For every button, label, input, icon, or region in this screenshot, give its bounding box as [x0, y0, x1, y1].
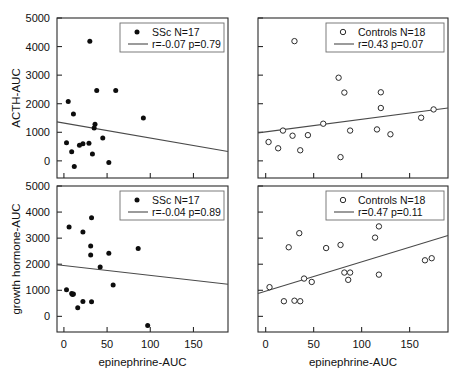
data-point-bottom-right-8 [342, 270, 347, 275]
data-point-top-right-13 [305, 132, 310, 137]
x-tick-label-bottom-left-1: 50 [101, 338, 113, 350]
figure-panel-grid: 010002000300040005000SSc N=17r=-0.07 p=0… [0, 0, 454, 382]
data-point-bottom-right-6 [422, 258, 427, 263]
x-tick-label-bottom-left-0: 0 [61, 338, 67, 350]
legend-marker-bottom-right [340, 197, 345, 202]
data-point-top-left-15 [106, 160, 111, 165]
legend-marker-top-left [135, 30, 140, 35]
y-axis-title-bottom: growth hormone-AUC [10, 203, 22, 314]
data-point-top-left-2 [113, 88, 118, 93]
data-point-bottom-right-2 [372, 235, 377, 240]
y-tick-label-bottom-left-4: 4000 [26, 206, 50, 218]
regression-line-bottom-left [57, 265, 228, 285]
data-point-top-right-8 [280, 128, 285, 133]
data-point-top-left-9 [64, 140, 69, 145]
data-point-top-right-3 [378, 90, 383, 95]
data-point-bottom-left-4 [136, 246, 141, 251]
legend-marker-top-right [340, 29, 345, 34]
data-point-bottom-right-16 [298, 299, 303, 304]
regression-line-top-left [57, 122, 228, 152]
y-tick-label-bottom-left-5: 5000 [26, 180, 50, 192]
legend-group-label-top-left: SSc N=17 [152, 26, 200, 38]
y-tick-label-bottom-left-3: 3000 [26, 232, 50, 244]
y-tick-label-bottom-left-2: 2000 [26, 258, 50, 270]
data-point-top-right-12 [290, 133, 295, 138]
data-point-bottom-right-9 [347, 270, 352, 275]
regression-line-bottom-right [258, 236, 448, 294]
x-axis-title-right: epinephrine-AUC [309, 356, 397, 368]
data-point-top-left-8 [100, 136, 105, 141]
scatter-figure: 010002000300040005000SSc N=17r=-0.07 p=0… [0, 0, 454, 382]
data-point-top-left-4 [71, 112, 76, 117]
x-axis-title-left: epinephrine-AUC [98, 356, 186, 368]
data-point-top-right-0 [292, 38, 297, 43]
data-point-bottom-left-0 [89, 215, 94, 220]
data-point-bottom-right-7 [429, 256, 434, 261]
y-tick-label-bottom-left-1: 1000 [26, 284, 50, 296]
data-point-bottom-right-11 [346, 277, 351, 282]
data-point-top-left-11 [86, 141, 91, 146]
y-tick-label-top-left-1: 1000 [26, 126, 50, 138]
data-point-top-right-1 [336, 75, 341, 80]
data-point-bottom-right-12 [301, 276, 306, 281]
data-point-top-right-4 [378, 105, 383, 110]
legend-group-label-bottom-left: SSc N=17 [152, 194, 200, 206]
data-point-bottom-left-14 [75, 305, 80, 310]
data-point-bottom-left-5 [88, 253, 93, 258]
data-point-bottom-left-6 [106, 251, 111, 256]
legend-stat-label-bottom-right: r=0.47 p=0.11 [358, 206, 423, 218]
x-tick-label-bottom-left-2: 100 [141, 338, 159, 350]
data-point-bottom-right-5 [286, 245, 291, 250]
data-point-bottom-left-2 [80, 229, 85, 234]
legend-stat-label-bottom-left: r=-0.04 p=0.89 [152, 206, 221, 218]
y-tick-label-top-left-5: 5000 [26, 12, 50, 24]
data-point-bottom-left-13 [89, 299, 94, 304]
x-tick-label-bottom-right-3: 150 [400, 338, 418, 350]
data-point-top-right-16 [298, 148, 303, 153]
data-point-bottom-left-15 [145, 323, 150, 328]
y-tick-label-top-left-3: 3000 [26, 69, 50, 81]
data-point-bottom-left-7 [98, 265, 103, 270]
legend-stat-label-top-right: r=0.43 p=0.07 [358, 38, 424, 50]
data-point-bottom-left-12 [80, 299, 85, 304]
data-point-bottom-left-1 [67, 224, 72, 229]
x-tick-label-bottom-right-2: 100 [352, 338, 370, 350]
data-point-bottom-right-10 [376, 272, 381, 277]
data-point-bottom-right-14 [267, 284, 272, 289]
data-point-top-right-15 [275, 146, 280, 151]
data-point-top-right-10 [374, 127, 379, 132]
data-point-bottom-right-0 [376, 224, 381, 229]
data-point-top-left-0 [87, 39, 92, 44]
data-point-bottom-left-8 [111, 283, 116, 288]
data-point-top-left-7 [92, 126, 97, 131]
y-tick-label-top-left-4: 4000 [26, 41, 50, 53]
legend-group-label-top-right: Controls N=18 [358, 26, 426, 38]
data-point-bottom-right-3 [338, 242, 343, 247]
data-point-top-right-9 [347, 128, 352, 133]
x-tick-label-bottom-right-0: 0 [263, 338, 269, 350]
data-point-top-left-5 [141, 116, 146, 121]
y-axis-title-top: ACTH-AUC [10, 68, 22, 127]
data-point-bottom-left-16 [71, 291, 76, 296]
data-point-top-left-13 [69, 149, 74, 154]
data-point-top-left-14 [90, 152, 95, 157]
y-tick-label-top-left-2: 2000 [26, 98, 50, 110]
data-point-bottom-right-17 [292, 298, 297, 303]
data-point-bottom-left-9 [64, 287, 69, 292]
data-point-top-left-3 [66, 99, 71, 104]
y-tick-label-bottom-left-0: 0 [44, 310, 50, 322]
data-point-top-right-17 [338, 154, 343, 159]
y-tick-label-top-left-0: 0 [44, 155, 50, 167]
data-point-top-right-2 [342, 90, 347, 95]
data-point-bottom-right-4 [323, 245, 328, 250]
data-point-top-right-5 [431, 107, 436, 112]
data-point-top-right-14 [266, 139, 271, 144]
legend-marker-bottom-left [135, 198, 140, 203]
data-point-bottom-right-15 [281, 299, 286, 304]
data-point-top-right-6 [418, 115, 423, 120]
data-point-top-left-1 [94, 88, 99, 93]
data-point-bottom-right-1 [297, 230, 302, 235]
x-tick-label-bottom-left-3: 150 [184, 338, 202, 350]
data-point-top-right-11 [388, 132, 393, 137]
x-tick-label-bottom-right-1: 50 [308, 338, 320, 350]
